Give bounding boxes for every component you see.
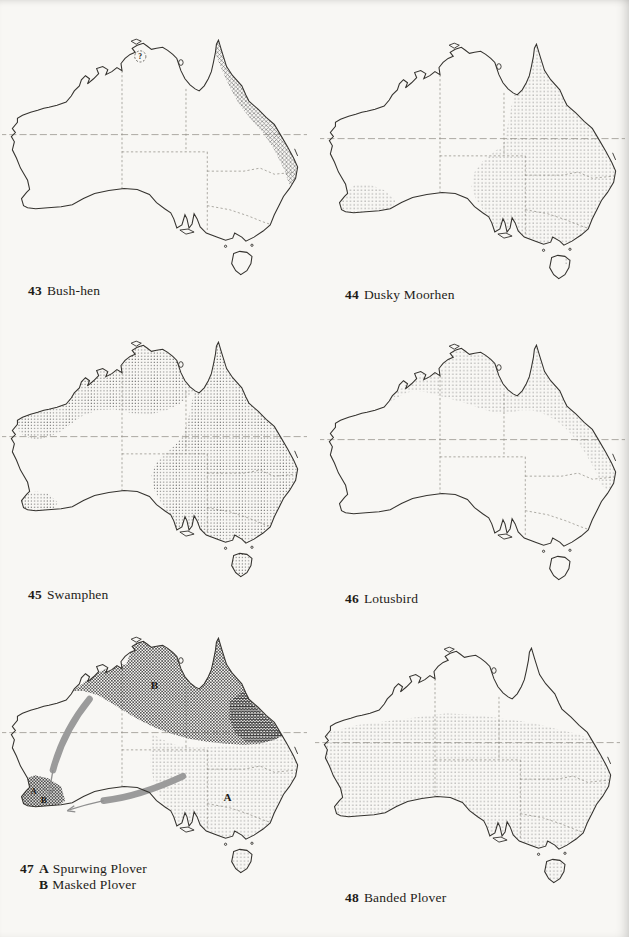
entry-letter-b: B [39, 877, 48, 892]
figure-caption-43: 43Bush-hen [28, 283, 100, 299]
figure-name: Lotusbird [364, 591, 418, 606]
tasmania-outline [545, 859, 565, 882]
figure-number: 47 [20, 861, 34, 876]
caption-line-2: BMasked Plover [20, 877, 147, 893]
tasmania-outline [232, 553, 252, 576]
state-borders [122, 71, 296, 231]
figure-caption-44: 44Dusky Moorhen [345, 287, 455, 303]
figure-name: Bush-hen [47, 283, 100, 298]
range-overlap [230, 691, 283, 743]
entry-name-b: Masked Plover [52, 877, 136, 892]
map-banded-plover [315, 636, 620, 902]
map-bush-hen: ? [2, 28, 307, 294]
migration-arrow-west [53, 699, 90, 770]
range-lotusbird [387, 341, 615, 490]
range-bush-hen [213, 36, 299, 185]
figure-name: Swamphen [47, 587, 109, 602]
australia-outline [11, 40, 297, 241]
map-swamphen [2, 330, 307, 596]
tasmania-outline [232, 251, 252, 274]
figure-caption-46: 46Lotusbird [345, 591, 418, 607]
figure-caption-45: 45Swamphen [28, 587, 109, 603]
tasmania-outline [550, 556, 570, 579]
tasmania-outline [232, 849, 252, 872]
figure-name: Banded Plover [364, 890, 446, 905]
figure-number: 48 [345, 890, 359, 905]
range-banded-plover [319, 713, 617, 861]
map-lotusbird [320, 333, 625, 599]
region-label-b-sw: B [41, 795, 47, 805]
tasmania-range-patch [564, 255, 571, 268]
range-swamphen [10, 330, 304, 555]
map-plovers: B A A B [2, 626, 307, 892]
region-label-b-north: B [151, 679, 159, 691]
figure-number: 45 [28, 587, 42, 602]
figure-number: 43 [28, 283, 42, 298]
range-dusky-moorhen [336, 40, 622, 257]
figure-name: Dusky Moorhen [364, 287, 455, 302]
entry-letter-a: A [39, 861, 49, 876]
caption-line-1: 47ASpurwing Plover [20, 861, 147, 877]
figure-caption-47: 47ASpurwing Plover BMasked Plover [20, 861, 147, 893]
uncertainty-marker: ? [138, 52, 142, 61]
region-label-a-sw: A [31, 787, 37, 796]
entry-name-a: Spurwing Plover [53, 861, 147, 876]
figure-number: 46 [345, 591, 359, 606]
atlas-page: ? [0, 0, 629, 937]
figure-caption-48: 48Banded Plover [345, 890, 446, 906]
region-label-a-east: A [224, 791, 232, 803]
figure-number: 44 [345, 287, 359, 302]
map-dusky-moorhen [320, 32, 625, 298]
